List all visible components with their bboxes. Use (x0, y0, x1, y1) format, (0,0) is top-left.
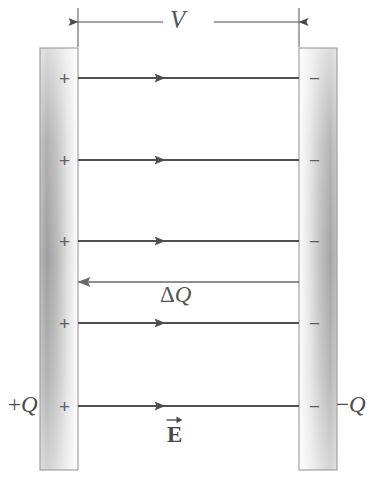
plate-sign-minus-5: − (309, 397, 320, 416)
vector-arrow-icon (166, 414, 183, 423)
capacitor-diagram-svg (0, 0, 378, 490)
plate-sign-plus-3: + (59, 232, 70, 251)
plate-sign-plus-4: + (59, 314, 70, 333)
plate-sign-plus-2: + (59, 151, 70, 170)
capacitor-diagram: + + + + + − − − − − V ΔQ E +Q −Q (0, 0, 378, 490)
negative-charge-sign: − (336, 392, 349, 417)
negative-charge-label: −Q (336, 393, 366, 416)
positive-charge-sign: + (8, 392, 21, 417)
plate-sign-minus-3: − (309, 232, 320, 251)
negative-charge-q: Q (349, 392, 366, 417)
plate-sign-minus-1: − (309, 69, 320, 88)
delta-symbol: Δ (160, 282, 175, 307)
plate-sign-minus-2: − (309, 151, 320, 170)
delta-charge-label: ΔQ (160, 283, 191, 306)
voltage-dimension (78, 8, 299, 47)
plate-sign-plus-5: + (59, 397, 70, 416)
voltage-label: V (170, 7, 185, 32)
electric-field-symbol: E (167, 422, 182, 447)
positive-charge-label: +Q (8, 393, 38, 416)
field-lines-group (78, 78, 299, 406)
plate-sign-plus-1: + (59, 69, 70, 88)
electric-field-label: E (167, 423, 182, 446)
positive-charge-q: Q (21, 392, 38, 417)
plate-sign-minus-4: − (309, 314, 320, 333)
delta-charge-q: Q (175, 282, 192, 307)
